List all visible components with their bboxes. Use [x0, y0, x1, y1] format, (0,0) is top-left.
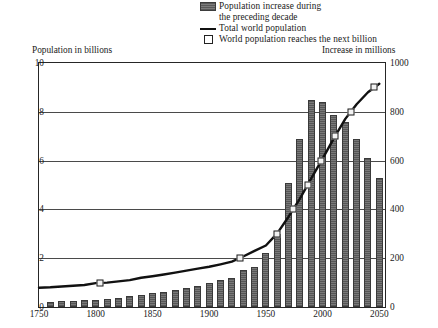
world-population-chart: Population increase during the preceding… — [0, 0, 438, 328]
y-tick-right: 800 — [390, 107, 424, 117]
x-tick: 1800 — [86, 309, 105, 319]
y-tick-left: 10 — [24, 58, 44, 68]
billion-marker — [304, 182, 311, 189]
x-tick: 2050 — [370, 309, 389, 319]
legend-label-bar: Population increase during — [219, 1, 321, 12]
x-tick: 1950 — [257, 309, 276, 319]
legend-item-marker: World population reaches the next billio… — [197, 34, 437, 45]
y-tick-right: 0 — [390, 302, 424, 312]
y-tick-right: 400 — [390, 204, 424, 214]
x-tick: 1750 — [30, 309, 49, 319]
billion-marker — [370, 84, 377, 91]
plot-area — [38, 62, 386, 308]
y-tick-right: 200 — [390, 253, 424, 263]
line-swatch-icon — [197, 23, 219, 34]
y-tick-right: 600 — [390, 156, 424, 166]
left-axis-caption: Population in billions — [32, 45, 112, 55]
population-line — [39, 63, 385, 307]
y-tick-right: 1000 — [390, 58, 424, 68]
y-tick-left: 4 — [24, 204, 44, 214]
billion-marker — [97, 279, 104, 286]
billion-marker — [347, 108, 354, 115]
legend-label-marker: World population reaches the next billio… — [219, 34, 377, 45]
legend-label-line: Total world population — [219, 23, 306, 34]
legend-item-line: Total world population — [197, 23, 437, 34]
billion-marker — [332, 133, 339, 140]
y-tick-left: 8 — [24, 107, 44, 117]
legend-item-bar: Population increase during — [197, 1, 437, 12]
legend-label-bar-line2: the preceding decade — [197, 12, 437, 23]
billion-marker — [274, 230, 281, 237]
square-swatch-icon — [197, 34, 219, 45]
bar-swatch-icon — [197, 1, 219, 12]
billion-marker — [318, 157, 325, 164]
chart-legend: Population increase during the preceding… — [197, 1, 437, 45]
right-axis-caption: Increase in millions — [322, 45, 395, 55]
billion-marker — [236, 255, 243, 262]
x-tick: 1900 — [200, 309, 219, 319]
y-tick-left: 6 — [24, 156, 44, 166]
x-tick: 2000 — [313, 309, 332, 319]
x-tick: 1850 — [143, 309, 162, 319]
y-tick-left: 2 — [24, 253, 44, 263]
billion-marker — [290, 206, 297, 213]
